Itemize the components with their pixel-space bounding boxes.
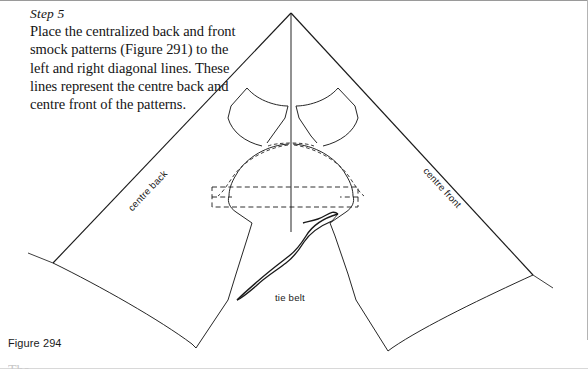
left-corner-tick (28, 253, 53, 263)
left-bust-bump (228, 196, 252, 223)
right-shoulder-curve (296, 88, 338, 106)
tie-belt-upper-edge (237, 214, 338, 300)
left-hem-arc (53, 263, 196, 348)
smock-pattern-diagram: centre back centre front tie belt (0, 0, 588, 369)
centre-front-label: centre front (421, 165, 464, 210)
right-armhole-line (338, 88, 358, 118)
left-skirt-side-seam (228, 223, 252, 300)
left-sleeve-under-line (267, 106, 288, 143)
right-corner-tick (533, 275, 553, 288)
dashed-waist-rectangle (212, 187, 358, 207)
figure-page: Step 5 Place the centralized back and fr… (0, 0, 588, 369)
right-sleeve-under-line (296, 106, 317, 143)
centre-back-label: centre back (126, 168, 170, 213)
right-side-seam-upper (323, 118, 358, 146)
right-hem-closing-line (356, 300, 388, 351)
left-side-seam-upper (228, 118, 262, 146)
right-hem-arc (388, 275, 533, 351)
left-hem-closing-line (196, 300, 228, 348)
left-diagonal-centre-back-line (53, 13, 291, 263)
tie-belt-label: tie belt (275, 292, 305, 303)
tie-belt-lower-edge (237, 221, 332, 300)
right-dome-dashed-echo (294, 145, 364, 196)
left-shoulder-curve (247, 88, 288, 106)
right-skirt-side-seam (330, 223, 356, 300)
left-dome-dashed-echo (218, 145, 288, 196)
left-armhole-line (228, 88, 247, 118)
right-diagonal-centre-front-line (291, 13, 533, 275)
